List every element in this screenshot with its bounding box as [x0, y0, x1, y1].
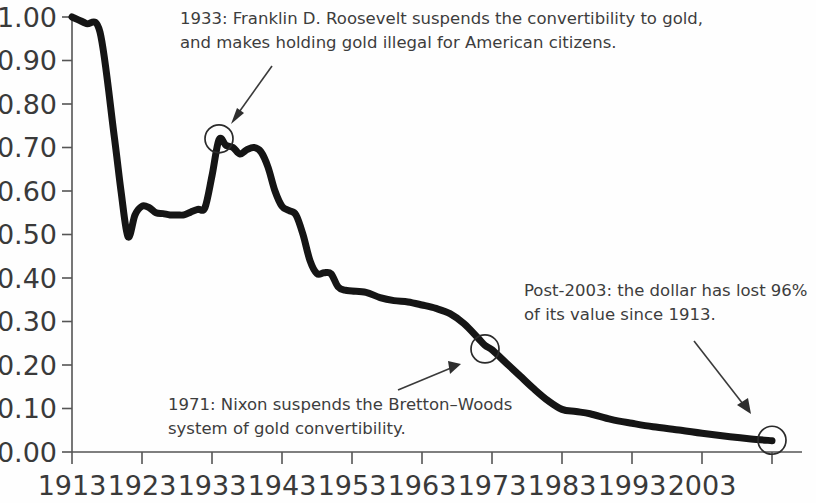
y-tick-label: 0.60: [0, 176, 57, 207]
x-axis-tick-labels: 1913 1923 1933 1943 1953 1963 1973 1983 …: [38, 470, 737, 501]
x-tick-label: 1943: [248, 470, 317, 501]
x-tick-label: 1993: [598, 470, 667, 501]
annotation-1933-line-1: 1933: Franklin D. Roosevelt suspends the…: [180, 9, 703, 28]
annotation-post2003-arrow-line: [694, 341, 743, 404]
x-tick-label: 1933: [178, 470, 247, 501]
y-tick-label: 0.70: [0, 132, 57, 163]
y-tick-label: 0.20: [0, 350, 57, 381]
annotation-post-2003: Post-2003: the dollar has lost 96% of it…: [524, 281, 808, 414]
annotation-1971-arrow-head: [448, 361, 461, 374]
annotation-1933: 1933: Franklin D. Roosevelt suspends the…: [180, 9, 703, 124]
x-tick-label: 2003: [668, 470, 737, 501]
x-tick-label: 1923: [108, 470, 177, 501]
x-tick-label: 1913: [38, 470, 107, 501]
x-tick-label: 1983: [528, 470, 597, 501]
data-series-line: [72, 17, 772, 441]
dollar-purchasing-power-chart: 1.00 0.90 0.80 0.70 0.60 0.50 0.40 0.30 …: [0, 0, 816, 503]
y-axis: [62, 17, 72, 452]
y-tick-label: 0.00: [0, 437, 57, 468]
annotation-post2003-line-2: of its value since 1913.: [524, 305, 716, 324]
y-tick-label: 0.10: [0, 393, 57, 424]
y-tick-label: 0.30: [0, 306, 57, 337]
x-tick-label: 1973: [458, 470, 527, 501]
annotation-1933-arrow-head: [231, 108, 244, 124]
y-tick-label: 0.80: [0, 89, 57, 120]
annotation-1933-line-2: and makes holding gold illegal for Ameri…: [180, 33, 617, 52]
annotation-1971: 1971: Nixon suspends the Bretton–Woods s…: [168, 361, 512, 438]
annotation-1971-line-1: 1971: Nixon suspends the Bretton–Woods: [168, 395, 512, 414]
x-axis: [72, 452, 802, 464]
y-axis-tick-labels: 1.00 0.90 0.80 0.70 0.60 0.50 0.40 0.30 …: [0, 2, 57, 468]
x-tick-label: 1963: [388, 470, 457, 501]
annotation-1971-line-2: system of gold convertibility.: [168, 419, 406, 438]
annotation-1933-arrow-line: [237, 66, 272, 115]
chart-page: 1.00 0.90 0.80 0.70 0.60 0.50 0.40 0.30 …: [0, 0, 816, 503]
y-tick-label: 0.90: [0, 45, 57, 76]
annotation-post2003-line-1: Post-2003: the dollar has lost 96%: [524, 281, 808, 300]
annotation-post2003-arrow-head: [737, 398, 751, 414]
y-tick-label: 1.00: [0, 2, 57, 33]
y-tick-label: 0.50: [0, 219, 57, 250]
y-tick-label: 0.40: [0, 263, 57, 294]
x-tick-label: 1953: [318, 470, 387, 501]
annotation-1971-arrow-line: [398, 368, 451, 390]
